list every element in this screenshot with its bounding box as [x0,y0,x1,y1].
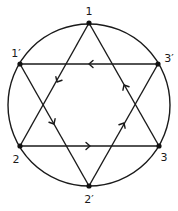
label-node-1: 1 [86,5,93,18]
node-1p [17,61,22,66]
node-3p [155,61,160,66]
edge-1p-to-2p [20,64,89,186]
edge-1-to-2 [20,23,89,146]
label-node-3p: 3′ [164,52,174,65]
label-node-2: 2 [13,153,20,166]
node-2 [17,143,22,148]
outer-circle [8,24,170,186]
star-circle-diagram: 1 1′ 3′ 2 3 2′ [0,0,178,211]
node-3 [156,143,161,148]
node-2p [86,183,91,188]
label-node-1p: 1′ [11,47,21,60]
node-1 [86,20,91,25]
label-node-2p: 2′ [84,193,94,206]
label-node-3: 3 [161,151,168,164]
